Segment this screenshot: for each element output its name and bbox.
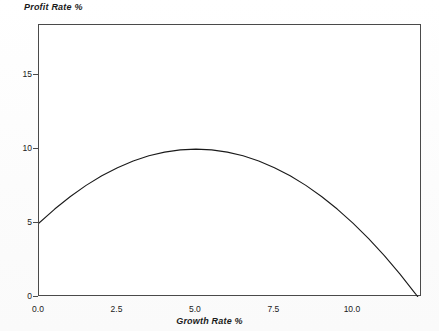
y-axis-tick-mark [33,74,38,75]
x-axis-title-text: Growth Rate % [176,316,243,326]
y-axis-tick-mark [33,148,38,149]
chart-page: Profit Rate % 051015 0.02.55.07.510.0 Gr… [0,0,439,331]
profit-rate-curve [39,25,422,297]
y-axis-tick-label: 15 [6,70,32,79]
y-axis-tick-mark [33,296,38,297]
curve-path [39,149,418,297]
plot-area [38,24,421,296]
y-axis-tick-label: 10 [6,144,32,153]
x-axis-title: Growth Rate % [0,316,439,326]
x-axis-tick-label: 7.5 [253,305,293,314]
y-axis-labels: 051015 [0,0,32,331]
y-axis-title: Profit Rate % [24,2,83,12]
y-axis-tick-label: 5 [6,218,32,227]
x-axis-tick-label: 2.5 [96,305,136,314]
x-axis-tick-label: 0.0 [18,305,58,314]
y-axis-tick-mark [33,222,38,223]
x-axis-tick-label: 5.0 [175,305,215,314]
x-axis-tick-label: 10.0 [332,305,372,314]
y-axis-tick-label: 0 [6,292,32,301]
